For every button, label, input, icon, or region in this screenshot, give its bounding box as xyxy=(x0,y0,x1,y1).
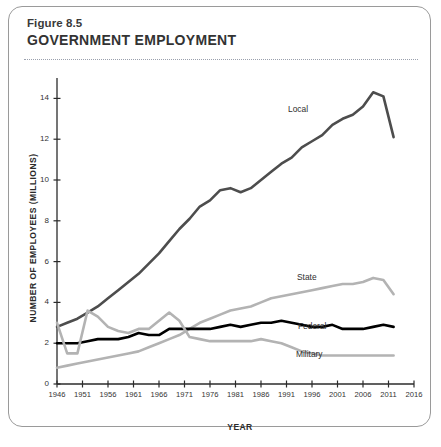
y-tick-label: 4 xyxy=(31,297,49,306)
y-tick-label: 10 xyxy=(31,175,49,184)
series-line-federal xyxy=(57,321,394,343)
series-label-state: State xyxy=(297,272,317,282)
y-tick-label: 0 xyxy=(31,379,49,388)
series-label-military: Military xyxy=(296,349,323,359)
chart-plot-area: NUMBER OF EMPLOYEES (MILLIONS) YEAR 0246… xyxy=(0,0,441,447)
line-chart xyxy=(0,0,441,447)
series-line-local xyxy=(57,92,394,327)
series-line-military xyxy=(57,311,394,356)
x-axis-title: YEAR xyxy=(180,422,300,432)
y-axis-title: NUMBER OF EMPLOYEES (MILLIONS) xyxy=(28,128,38,348)
series-label-federal: Federal xyxy=(298,321,326,331)
y-tick-label: 8 xyxy=(31,216,49,225)
y-tick-label: 12 xyxy=(31,134,49,143)
y-tick-label: 14 xyxy=(31,93,49,102)
series-label-local: Local xyxy=(288,104,308,114)
x-tick-label: 2016 xyxy=(399,390,429,399)
chart-series-group xyxy=(57,92,394,367)
y-tick-label: 6 xyxy=(31,257,49,266)
y-tick-label: 2 xyxy=(31,338,49,347)
